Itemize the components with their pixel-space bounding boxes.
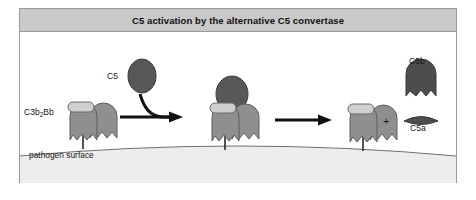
- diagram-canvas: [20, 32, 456, 183]
- c5-binding-arrow: [120, 94, 183, 123]
- label-c5: C5: [107, 72, 118, 81]
- label-c5b: C5b: [409, 57, 425, 66]
- label-c3b2bb-main: C3b: [24, 107, 40, 117]
- figure-title-band: C5 activation by the alternative C5 conv…: [20, 9, 456, 32]
- label-c5a: C5a: [410, 124, 426, 133]
- plus-operator: +: [383, 116, 389, 127]
- c5-bound-convertase-stage2: [210, 76, 259, 150]
- label-pathogen-surface: pathogen surface: [29, 150, 94, 160]
- label-c3b2bb-tail: Bb: [43, 107, 54, 117]
- label-c3b2bb: C3b2Bb: [24, 108, 54, 118]
- c5-ellipse-free: [128, 59, 156, 93]
- bb-rectangle: [210, 103, 236, 113]
- convertase-after-cleavage-stage3: [348, 104, 397, 151]
- page-title: C5 activation by the alternative C5 conv…: [132, 15, 344, 26]
- figure-frame: C5 activation by the alternative C5 conv…: [19, 8, 457, 183]
- alternative-c5-convertase-stage1: [68, 102, 117, 149]
- bb-rectangle: [348, 104, 374, 114]
- bb-rectangle: [68, 102, 94, 112]
- cleavage-arrow: [275, 115, 332, 126]
- diagram-stage: C3b2Bb C5 C5b C5a + pathogen surface: [20, 32, 456, 183]
- figure-root: C5 activation by the alternative C5 conv…: [0, 0, 476, 200]
